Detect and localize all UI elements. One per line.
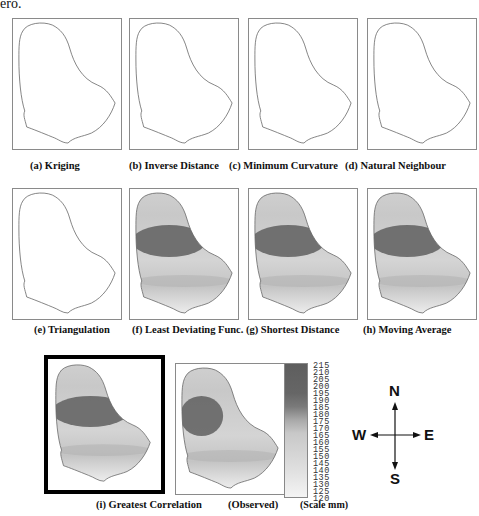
island-outline [130,19,238,149]
compass-north: N [389,382,400,399]
map-panel-kriging [12,18,122,150]
island-outline [368,19,476,149]
rainfall-surface [368,189,476,319]
island-outline [249,19,357,149]
compass-east: E [424,426,434,443]
caption-natural-neighbour: (d) Natural Neighbour [345,160,446,171]
map-panel-triangulation [12,188,122,320]
compass-arrows-icon [365,380,455,490]
map-panel-inverse-distance [129,18,239,150]
map-panel-natural-neighbour [367,18,477,150]
compass-south: S [390,470,400,487]
map-panel-observed [175,363,285,495]
map-panel-least-deviating [129,188,239,320]
island-outline [13,189,121,319]
compass-rose: N S W E [365,380,455,490]
caption-shortest-distance: (g) Shortest Distance [246,324,339,335]
island-outline [13,19,121,149]
rainfall-surface [249,189,357,319]
map-panel-greatest-correlation [50,361,156,487]
map-panel-minimum-curvature [248,18,358,150]
caption-moving-average: (h) Moving Average [363,324,451,335]
caption-inverse-distance: (b) Inverse Distance [129,160,219,171]
preceding-text-fragment: ero. [0,0,21,12]
caption-minimum-curvature: (c) Minimum Curvature [229,160,338,171]
rainfall-surface [50,361,156,487]
compass-west: W [352,426,366,443]
caption-observed: (Observed) [228,499,278,510]
caption-kriging: (a) Kriging [30,160,80,171]
caption-scale: (Scale mm) [300,499,348,510]
map-panel-shortest-distance [248,188,358,320]
caption-triangulation: (e) Triangulation [34,324,110,335]
caption-least-deviating: (f) Least Deviating Func. [132,324,243,335]
rainfall-surface [176,364,284,494]
caption-greatest-correlation: (i) Greatest Correlation [96,499,202,510]
map-panel-moving-average [367,188,477,320]
colorbar [284,363,308,498]
rainfall-surface [130,189,238,319]
